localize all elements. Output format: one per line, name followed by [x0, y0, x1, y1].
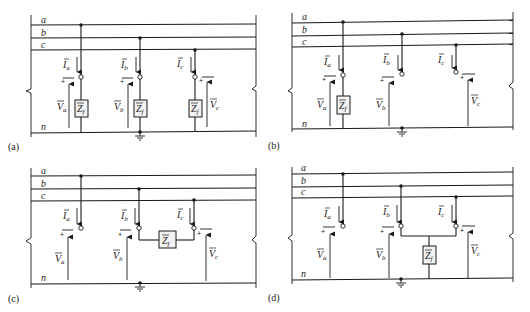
svg-text:+: +: [380, 77, 384, 84]
svg-text:c: c: [302, 36, 307, 47]
svg-text:Vb: Vb: [376, 249, 386, 262]
svg-text:+: +: [118, 231, 122, 238]
svg-text:b: b: [41, 178, 46, 189]
svg-text:+: +: [460, 74, 464, 81]
svg-text:Vc: Vc: [471, 95, 481, 108]
conductor-c: [31, 49, 256, 50]
voltage-Vc: Vc: [210, 99, 220, 112]
svg-text:Va: Va: [317, 99, 327, 112]
svg-text:n: n: [302, 118, 307, 129]
svg-text:Ia: Ia: [323, 208, 331, 221]
svg-text:Ia: Ia: [62, 210, 70, 223]
voltage-Va: Va: [57, 101, 67, 114]
svg-text:a: a: [41, 165, 46, 176]
label-c: c: [41, 39, 46, 50]
voltage-Vb: Vb: [114, 101, 124, 114]
svg-text:a: a: [302, 11, 307, 22]
overbars: [55, 54, 478, 253]
caption-d: (d): [268, 292, 280, 304]
panel-a: a b c n Ia + Va Zf Ib + Vb Zf: [8, 14, 256, 153]
svg-text:+: +: [199, 77, 203, 84]
svg-text:Ib: Ib: [120, 210, 128, 223]
svg-text:Va: Va: [317, 249, 327, 262]
svg-text:Ib: Ib: [382, 54, 390, 67]
svg-text:a: a: [301, 162, 306, 173]
svg-text:b: b: [301, 175, 306, 186]
svg-text:+: +: [460, 227, 464, 234]
panel-b: a b c n Ia + Va Zf Ib + Vb: [268, 11, 513, 152]
svg-text:Ib: Ib: [382, 206, 390, 219]
current-Ia: Ia: [62, 59, 70, 72]
svg-text:n: n: [301, 268, 306, 279]
svg-text:Ic: Ic: [437, 54, 445, 67]
panel-d: a b c n Ia + Va Ib + Vb Zf: [268, 162, 513, 304]
svg-text:Ic: Ic: [176, 209, 184, 222]
svg-text:Ic: Ic: [437, 206, 445, 219]
fault-diagrams: a b c n Ia + Va Zf Ib + Vb Zf: [0, 0, 530, 312]
svg-text:+: +: [322, 76, 326, 83]
label-b: b: [41, 27, 46, 38]
svg-text:+: +: [321, 228, 325, 235]
svg-text:Vb: Vb: [376, 99, 386, 112]
svg-text:+: +: [197, 230, 201, 237]
conductor-n: [31, 131, 256, 133]
caption-a: (a): [8, 141, 19, 153]
svg-text:+: +: [60, 231, 64, 238]
label-n: n: [41, 121, 46, 132]
svg-text:c: c: [301, 186, 306, 197]
svg-text:Vc: Vc: [209, 248, 219, 261]
svg-text:+: +: [380, 228, 384, 235]
svg-text:c: c: [41, 190, 46, 201]
conductor-a: [31, 24, 256, 25]
panel-c: a b c n Ia + Va Zf Ib + Vb Ic: [8, 165, 256, 305]
caption-c: (c): [8, 293, 19, 305]
svg-text:+: +: [61, 78, 65, 85]
svg-text:Ia: Ia: [323, 56, 331, 69]
svg-text:n: n: [41, 272, 46, 283]
current-Ib: Ib: [120, 59, 128, 72]
conductor-b: [31, 37, 256, 38]
svg-text:Vb: Vb: [113, 250, 123, 263]
svg-text:b: b: [302, 24, 307, 35]
svg-text:Vc: Vc: [471, 245, 481, 258]
svg-text:+: +: [120, 78, 124, 85]
label-a: a: [41, 14, 46, 25]
current-Ic: Ic: [176, 58, 184, 71]
svg-text:Va: Va: [55, 253, 65, 266]
caption-b: (b): [268, 140, 280, 152]
